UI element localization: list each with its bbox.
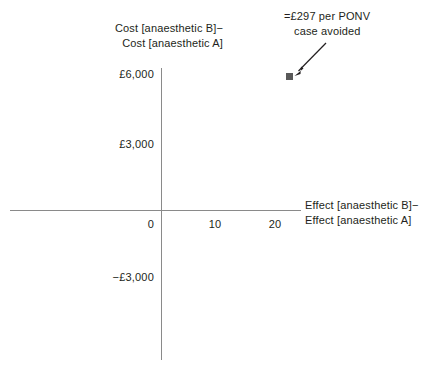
x-axis-line: [10, 210, 301, 212]
x-tick-label-0: 0: [131, 218, 171, 230]
x-tick-label-20: 20: [255, 218, 295, 230]
icer-annotation-line-1: =£297 per PONV: [284, 10, 370, 22]
y-tick-label-3000: £3,000: [64, 138, 154, 150]
y-axis-title-line-2: Cost [anaesthetic A]: [122, 37, 223, 49]
y-axis-line: [161, 68, 163, 360]
cost-effectiveness-plane-chart: Cost [anaesthetic B]− Cost [anaesthetic …: [0, 0, 423, 371]
y-tick-label-minus-3000: −£3,000: [64, 271, 154, 283]
annotation-arrow-icon: [286, 38, 334, 82]
x-axis-title: Effect [anaesthetic B]− Effect [anaesthe…: [305, 198, 419, 227]
x-axis-title-line-1: Effect [anaesthetic B]−: [305, 199, 419, 211]
x-axis-title-line-2: Effect [anaesthetic A]: [305, 214, 411, 226]
icer-annotation-line-2: case avoided: [284, 24, 370, 39]
icer-annotation-text: =£297 per PONV case avoided: [284, 9, 370, 38]
y-axis-title-line-1: Cost [anaesthetic B]−: [115, 22, 223, 34]
y-tick-label-6000: £6,000: [64, 68, 154, 80]
y-axis-title: Cost [anaesthetic B]− Cost [anaesthetic …: [0, 21, 223, 50]
x-tick-label-10: 10: [195, 218, 235, 230]
